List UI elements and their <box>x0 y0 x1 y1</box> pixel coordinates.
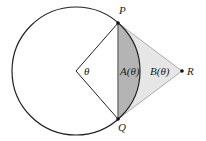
point-p <box>116 21 120 25</box>
label-p: P <box>118 4 126 16</box>
label-q: Q <box>118 121 126 133</box>
label-region-b: B(θ) <box>150 65 170 78</box>
label-region-a: A(θ) <box>119 65 140 78</box>
radius-oq <box>76 71 118 119</box>
label-r: R <box>186 65 194 77</box>
label-theta: θ <box>84 65 90 77</box>
diagram-canvas: P Q R θ A(θ) B(θ) <box>0 0 206 141</box>
radius-op <box>76 23 118 71</box>
point-r <box>180 69 184 73</box>
